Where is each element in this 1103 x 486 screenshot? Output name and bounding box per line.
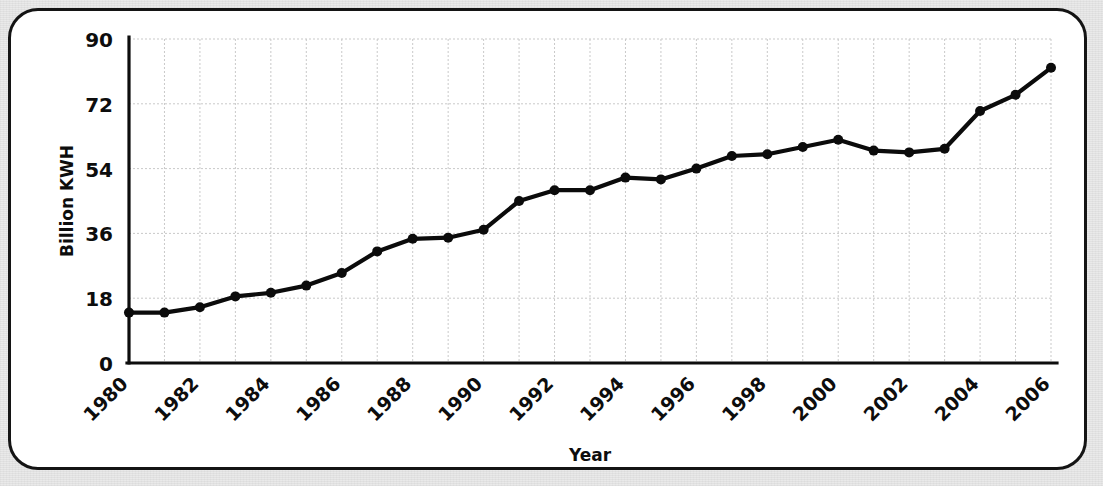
data-point — [585, 185, 595, 195]
x-tick-label: 2002 — [859, 372, 912, 425]
x-tick-label: 1990 — [433, 372, 486, 425]
data-point — [479, 225, 489, 235]
data-point — [762, 149, 772, 159]
y-tick-label: 54 — [85, 158, 113, 182]
line-chart: 01836547290 1980198219841986198819901992… — [11, 11, 1087, 470]
axis-lines — [127, 37, 1057, 363]
data-point — [656, 174, 666, 184]
x-tick-label: 1996 — [646, 372, 699, 425]
x-tick-label: 1984 — [221, 372, 274, 425]
x-tick-label: 1998 — [717, 372, 770, 425]
data-point — [727, 151, 737, 161]
x-tick-label: 1992 — [504, 372, 557, 425]
data-point — [940, 144, 950, 154]
x-tick-label: 1982 — [150, 372, 203, 425]
vertical-gridlines — [129, 39, 1051, 363]
x-tick-label: 1988 — [363, 372, 416, 425]
data-point — [620, 173, 630, 183]
data-point — [124, 308, 134, 318]
data-point — [1011, 90, 1021, 100]
data-point — [337, 268, 347, 278]
y-tick-label: 90 — [85, 28, 113, 52]
data-point — [975, 106, 985, 116]
x-tick-label: 1980 — [79, 372, 132, 425]
data-point — [869, 146, 879, 156]
y-tick-label: 18 — [85, 287, 113, 311]
data-point — [159, 308, 169, 318]
data-point — [301, 281, 311, 291]
data-point — [408, 234, 418, 244]
data-point — [833, 135, 843, 145]
x-tick-labels: 1980198219841986198819901992199419961998… — [79, 372, 1054, 425]
x-tick-label: 2006 — [1001, 372, 1054, 425]
data-point — [514, 196, 524, 206]
y-tick-label: 36 — [85, 222, 113, 246]
data-point — [550, 185, 560, 195]
data-point — [230, 291, 240, 301]
x-tick-label: 1986 — [292, 372, 345, 425]
data-point — [443, 233, 453, 243]
data-point — [798, 142, 808, 152]
data-point — [691, 164, 701, 174]
y-tick-label: 0 — [99, 352, 113, 376]
data-point — [372, 246, 382, 256]
data-point — [266, 288, 276, 298]
data-point — [1046, 63, 1056, 73]
figure-card: 01836547290 1980198219841986198819901992… — [8, 8, 1087, 470]
x-tick-label: 1994 — [575, 372, 628, 425]
y-axis-title: Billion KWH — [57, 145, 77, 257]
y-tick-labels: 01836547290 — [85, 28, 113, 376]
x-tick-label: 2000 — [788, 372, 841, 425]
data-point — [904, 147, 914, 157]
x-tick-label: 2004 — [930, 372, 983, 425]
data-point — [195, 302, 205, 312]
y-tick-label: 72 — [85, 93, 113, 117]
x-axis-title: Year — [568, 445, 612, 465]
